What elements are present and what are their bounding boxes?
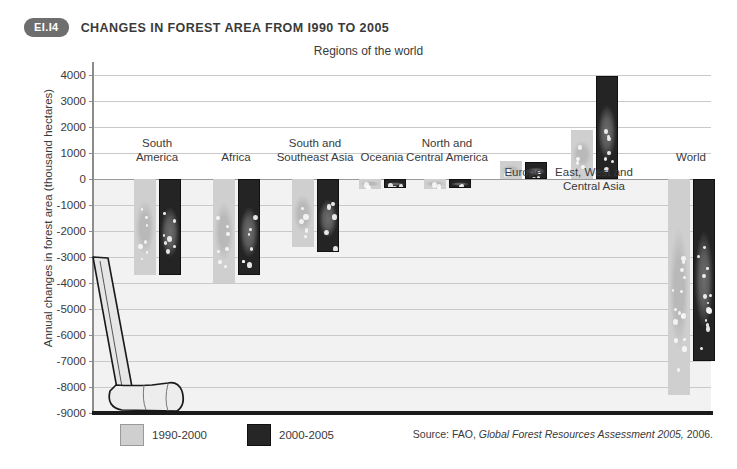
bar-2000-2005-0 bbox=[159, 179, 181, 275]
category-label-4: North andCentral America bbox=[372, 137, 522, 164]
y-tick-label-0: 0 bbox=[32, 173, 86, 185]
y-tick-label--2000: -2000 bbox=[32, 225, 86, 237]
figure-number-badge: EI.I4 bbox=[24, 18, 69, 37]
bar-1990-2000-3 bbox=[359, 179, 381, 189]
bar-texture bbox=[385, 180, 405, 187]
bar-1990-2000-1 bbox=[213, 179, 235, 283]
bar-2000-2005-7 bbox=[693, 179, 715, 361]
y-axis-tick-labels: 40003000200010000-1000-2000-3000-4000-50… bbox=[24, 62, 86, 413]
category-label-line: South and bbox=[240, 137, 390, 151]
gridline--8000 bbox=[94, 387, 711, 388]
tick--4000 bbox=[89, 283, 94, 284]
tick--3000 bbox=[89, 257, 94, 258]
bar-texture bbox=[359, 179, 381, 189]
bar-texture bbox=[239, 180, 259, 274]
bar-texture bbox=[318, 180, 338, 251]
y-tick-label-1000: 1000 bbox=[32, 147, 86, 159]
bar-2000-2005-3 bbox=[384, 179, 406, 188]
category-label-line: South bbox=[82, 137, 232, 151]
bar-texture bbox=[160, 180, 180, 274]
bar-1990-2000-2 bbox=[292, 179, 314, 247]
gridline--7000 bbox=[94, 361, 711, 362]
tick--6000 bbox=[89, 335, 94, 336]
gridline--1000 bbox=[94, 205, 711, 206]
bar-1990-2000-7 bbox=[668, 179, 690, 395]
x-axis-baseline bbox=[92, 411, 713, 415]
gridline--4000 bbox=[94, 283, 711, 284]
category-label-6: East, West andCentral Asia bbox=[519, 166, 669, 193]
y-tick-label--1000: -1000 bbox=[32, 199, 86, 211]
source-prefix: Source: FAO, bbox=[413, 428, 476, 440]
legend-item-0[interactable]: 1990-2000 bbox=[120, 424, 207, 446]
bar-texture bbox=[213, 179, 235, 283]
bar-2000-2005-1 bbox=[238, 179, 260, 275]
bar-1990-2000-4 bbox=[424, 179, 446, 189]
legend-label-0: 1990-2000 bbox=[152, 429, 207, 441]
bar-texture bbox=[134, 179, 156, 275]
tick--2000 bbox=[89, 231, 94, 232]
bar-2000-2005-6 bbox=[596, 76, 618, 179]
bar-2000-2005-4 bbox=[449, 179, 471, 188]
y-tick-label--8000: -8000 bbox=[32, 381, 86, 393]
gridline--6000 bbox=[94, 335, 711, 336]
gridline-4000 bbox=[94, 75, 711, 76]
y-tick-label-3000: 3000 bbox=[32, 95, 86, 107]
gridline-3000 bbox=[94, 101, 711, 102]
legend-label-1: 2000-2005 bbox=[279, 429, 334, 441]
tick-3000 bbox=[89, 101, 94, 102]
bar-texture bbox=[668, 179, 690, 395]
tick--5000 bbox=[89, 309, 94, 310]
bar-1990-2000-0 bbox=[134, 179, 156, 275]
source-note: Source: FAO, Global Forest Resources Ass… bbox=[413, 428, 713, 440]
tick-0 bbox=[89, 179, 94, 180]
y-tick-label--7000: -7000 bbox=[32, 355, 86, 367]
category-label-line: Central Asia bbox=[519, 180, 669, 194]
tick-2000 bbox=[89, 127, 94, 128]
y-tick-label--9000: -9000 bbox=[32, 407, 86, 419]
legend-item-1[interactable]: 2000-2005 bbox=[247, 424, 334, 446]
tick--1000 bbox=[89, 205, 94, 206]
bar-texture bbox=[292, 179, 314, 247]
x-axis-title: Regions of the world bbox=[0, 44, 737, 58]
y-tick-label-4000: 4000 bbox=[32, 69, 86, 81]
plot-area: SouthAmericaAfricaSouth andSoutheast Asi… bbox=[92, 62, 711, 413]
tick--8000 bbox=[89, 387, 94, 388]
source-suffix: 2006. bbox=[687, 428, 713, 440]
y-tick-label--6000: -6000 bbox=[32, 329, 86, 341]
bar-2000-2005-2 bbox=[317, 179, 339, 252]
gridline-2000 bbox=[94, 127, 711, 128]
bar-texture bbox=[597, 77, 617, 178]
source-publication: Global Forest Resources Assessment 2005, bbox=[479, 428, 684, 440]
bar-texture bbox=[450, 180, 470, 187]
category-label-line: World bbox=[616, 151, 737, 165]
legend-swatch-0 bbox=[120, 424, 144, 446]
legend: 1990-20002000-2005 bbox=[120, 424, 334, 446]
tick-4000 bbox=[89, 75, 94, 76]
gridline--3000 bbox=[94, 257, 711, 258]
y-tick-label--5000: -5000 bbox=[32, 303, 86, 315]
category-label-line: East, West and bbox=[519, 166, 669, 180]
gridline--2000 bbox=[94, 231, 711, 232]
tick--7000 bbox=[89, 361, 94, 362]
chart-header: EI.I4 CHANGES IN FOREST AREA FROM I990 T… bbox=[24, 18, 389, 37]
category-label-line: North and bbox=[372, 137, 522, 151]
category-label-line: Central America bbox=[372, 151, 522, 165]
legend-swatch-1 bbox=[247, 424, 271, 446]
y-tick-label-2000: 2000 bbox=[32, 121, 86, 133]
gridline--5000 bbox=[94, 309, 711, 310]
category-label-7: World bbox=[616, 151, 737, 165]
bar-texture bbox=[694, 180, 714, 360]
page-title: CHANGES IN FOREST AREA FROM I990 TO 2005 bbox=[81, 21, 390, 35]
y-tick-label--4000: -4000 bbox=[32, 277, 86, 289]
bar-texture bbox=[424, 179, 446, 189]
y-tick-label--3000: -3000 bbox=[32, 251, 86, 263]
